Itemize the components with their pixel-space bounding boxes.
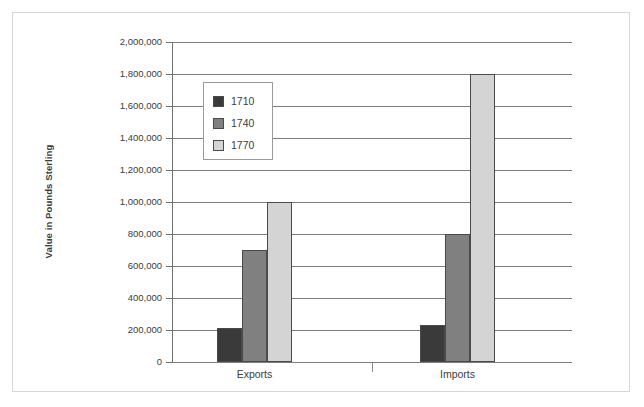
y-axis-tick-label: 1,600,000 [72, 100, 162, 111]
legend-item-1740: 1740 [213, 112, 272, 134]
x-axis-category-label: Exports [175, 368, 335, 380]
gridline [172, 202, 572, 203]
y-axis-tick-mark [166, 298, 172, 299]
y-axis-title: Value in Pounds Sterling [43, 92, 54, 312]
y-axis-tick-label: 1,400,000 [72, 132, 162, 143]
chart-legend: 171017401770 [203, 82, 273, 160]
legend-item-1710: 1710 [213, 90, 272, 112]
y-axis-tick-mark [166, 266, 172, 267]
gridline [172, 234, 572, 235]
gridline [172, 170, 572, 171]
y-axis-tick-mark [166, 202, 172, 203]
legend-swatch-icon [213, 96, 224, 107]
bar-imports-1740 [445, 234, 470, 362]
y-axis-tick-mark [166, 138, 172, 139]
bar-imports-1710 [420, 325, 445, 362]
bar-exports-1740 [242, 250, 267, 362]
legend-item-1770: 1770 [213, 134, 272, 156]
y-axis-tick-mark [166, 42, 172, 43]
y-axis-tick-label: 1,800,000 [72, 68, 162, 79]
y-axis-tick-label: 200,000 [72, 324, 162, 335]
y-axis-tick-mark [166, 170, 172, 171]
y-axis-tick-mark [166, 234, 172, 235]
x-axis-category-label: Imports [378, 368, 538, 380]
gridline [172, 298, 572, 299]
y-axis-tick-label: 600,000 [72, 260, 162, 271]
y-axis-tick-label: 1,000,000 [72, 196, 162, 207]
legend-label: 1740 [231, 117, 254, 129]
legend-label: 1770 [231, 139, 254, 151]
y-axis-tick-label: 2,000,000 [72, 36, 162, 47]
legend-swatch-icon [213, 118, 224, 129]
y-axis-tick-mark [166, 106, 172, 107]
legend-label: 1710 [231, 95, 254, 107]
legend-swatch-icon [213, 140, 224, 151]
y-axis-tick-mark [166, 362, 172, 363]
gridline [172, 74, 572, 75]
gridline [172, 42, 572, 43]
bar-exports-1710 [217, 328, 242, 362]
y-axis-tick-label: 1,200,000 [72, 164, 162, 175]
y-axis-tick-label: 800,000 [72, 228, 162, 239]
bar-imports-1770 [470, 74, 495, 362]
chart-figure: Value in Pounds Sterling 0200,000400,000… [0, 0, 644, 407]
y-axis-tick-label: 0 [72, 356, 162, 367]
gridline [172, 266, 572, 267]
y-axis-tick-mark [166, 74, 172, 75]
y-axis-tick-mark [166, 330, 172, 331]
category-separator-tick [372, 363, 373, 372]
y-axis-tick-label: 400,000 [72, 292, 162, 303]
bar-exports-1770 [267, 202, 292, 362]
y-axis-tick-labels: 0200,000400,000600,000800,0001,000,0001,… [68, 0, 162, 407]
